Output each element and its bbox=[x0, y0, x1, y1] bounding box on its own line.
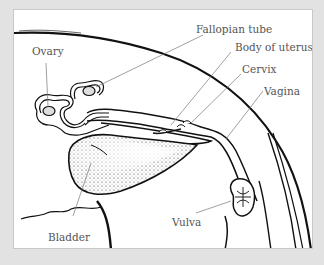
label-fallopian-tube: Fallopian tube bbox=[196, 24, 272, 35]
ovary-left bbox=[43, 107, 55, 116]
label-ovary: Ovary bbox=[32, 46, 64, 57]
vulva bbox=[231, 179, 255, 216]
label-vulva: Vulva bbox=[172, 217, 201, 228]
label-vagina: Vagina bbox=[264, 86, 300, 97]
label-cervix: Cervix bbox=[242, 64, 276, 75]
label-bladder: Bladder bbox=[48, 232, 90, 243]
label-body-of-uterus: Body of uterus bbox=[235, 42, 313, 53]
belly-outline bbox=[21, 207, 101, 219]
ovary-right bbox=[83, 87, 95, 96]
diagram-panel: Ovary Fallopian tube Body of uterus Cerv… bbox=[13, 9, 313, 249]
